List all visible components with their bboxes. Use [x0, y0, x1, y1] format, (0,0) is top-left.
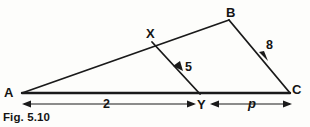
- vertex-label-b: B: [226, 6, 236, 19]
- geometry-figure: A B C X Y 8 5 2 p Fig. 5.10: [0, 0, 310, 127]
- measure-label-yc: p: [248, 97, 256, 110]
- segment-ab: [22, 20, 229, 93]
- vertex-label-y: Y: [197, 98, 206, 111]
- measure-label-bc: 8: [266, 39, 273, 52]
- dimension-arrow-ay-left: [22, 101, 31, 108]
- figure-caption: Fig. 5.10: [3, 112, 50, 124]
- dimension-arrow-yc-left: [210, 101, 219, 108]
- vertex-label-a: A: [4, 86, 14, 99]
- arrowhead-bc: [259, 51, 268, 61]
- measure-label-ay: 2: [103, 98, 110, 111]
- measure-label-xy: 5: [185, 61, 192, 74]
- segment-bc: [229, 20, 290, 93]
- segment-xy: [152, 42, 200, 94]
- vertex-label-x: X: [146, 27, 155, 40]
- dimension-arrow-ay-right: [187, 101, 196, 108]
- vertex-label-c: C: [292, 83, 302, 96]
- figure-drawing: [0, 0, 310, 127]
- dimension-arrow-yc-right: [283, 101, 292, 108]
